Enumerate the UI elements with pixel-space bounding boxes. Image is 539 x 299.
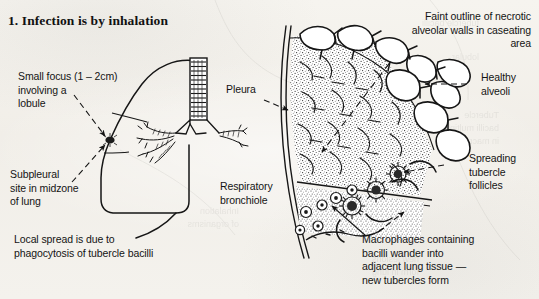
label-small-focus: Small focus (1 – 2cm) involving a lobule [18, 70, 158, 111]
infection-focus-nodule [103, 133, 117, 147]
label-pleura: Pleura [226, 83, 256, 97]
lung-fissure-lower [104, 152, 129, 153]
label-faint-outline: Faint outline of necrotic alveolar walls… [366, 10, 531, 51]
lung-fissure [112, 113, 147, 122]
pleura-leader [264, 100, 288, 110]
label-local-spread: Local spread is due to phagocytosis of t… [14, 233, 234, 260]
textbook-figure-page: tubercle bacilli lobular Tubercle bacill… [0, 0, 539, 299]
label-respiratory-bronchiole: Respiratory bronchiole [220, 180, 310, 207]
trachea [190, 58, 207, 120]
label-macrophages: Macrophages containing bacilli wander in… [362, 233, 537, 287]
label-healthy-alveoli: Healthy alveoli [481, 71, 539, 98]
page-title: 1. Infection is by inhalation [8, 13, 168, 29]
label-spreading-follicles: Spreading tubercle follicles [469, 152, 539, 193]
label-subpleural-site: Subpleural site in midzone of lung [10, 168, 130, 209]
bronchial-tree [137, 120, 248, 163]
